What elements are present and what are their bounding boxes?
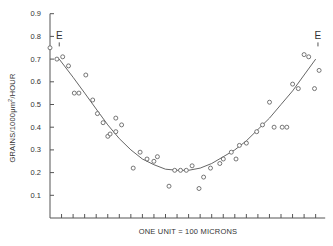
data-point [261, 123, 265, 127]
data-point [190, 164, 194, 168]
y-tick-label: 0.8 [31, 32, 41, 41]
data-point [152, 159, 156, 163]
data-point [95, 112, 99, 116]
data-point [221, 157, 225, 161]
data-point [155, 155, 159, 159]
data-point [202, 175, 206, 179]
y-tick-label: 0.4 [31, 123, 41, 132]
data-point [91, 98, 95, 102]
y-tick-label: 0.5 [31, 100, 41, 109]
data-point [108, 132, 112, 136]
y-axis-title: GRAINS/1000μm2/HOUR [7, 73, 17, 163]
x-axis-title: ONE UNIT = 100 MICRONS [139, 227, 238, 236]
y-axis: 0.10.20.30.40.50.60.70.80.9 [31, 9, 54, 218]
y-tick-label: 0.6 [31, 77, 41, 86]
data-point [302, 53, 306, 57]
data-point [101, 121, 105, 125]
data-point [173, 168, 177, 172]
data-point [114, 130, 118, 134]
data-point [138, 150, 142, 154]
data-point [77, 91, 81, 95]
data-point [296, 87, 300, 91]
data-point [48, 46, 52, 50]
data-point [72, 91, 76, 95]
y-tick-label: 0.9 [31, 9, 41, 18]
data-point [285, 125, 289, 129]
data-point [268, 100, 272, 104]
y-tick-label: 0.2 [31, 168, 41, 177]
data-point [61, 55, 65, 59]
y-tick-label: 0.7 [31, 55, 41, 64]
data-point [179, 168, 183, 172]
data-point [291, 82, 295, 86]
data-point [272, 125, 276, 129]
y-tick-label: 0.1 [31, 191, 41, 200]
data-point [114, 116, 118, 120]
data-point [167, 184, 171, 188]
data-point [218, 162, 222, 166]
data-point [197, 187, 201, 191]
x-axis [50, 214, 325, 218]
data-point [280, 125, 284, 129]
scatter-chart: 0.10.20.30.40.50.60.70.80.9 EE ONE UNIT … [0, 0, 333, 246]
data-point [131, 166, 135, 170]
annotations: EE [56, 30, 322, 46]
data-point [120, 123, 124, 127]
data-point [209, 166, 213, 170]
data-point [313, 87, 317, 91]
data-point [307, 55, 311, 59]
data-point [67, 64, 71, 68]
data-point [84, 73, 88, 77]
annotation-label: E [56, 30, 63, 41]
annotation-label: E [315, 30, 322, 41]
data-point [244, 141, 248, 145]
data-point [234, 157, 238, 161]
data-point [237, 143, 241, 147]
data-point [145, 157, 149, 161]
data-point [255, 130, 259, 134]
data-points [48, 46, 321, 191]
data-point [184, 168, 188, 172]
y-tick-label: 0.3 [31, 145, 41, 154]
data-point [317, 68, 321, 72]
data-point [55, 57, 59, 61]
data-point [229, 150, 233, 154]
